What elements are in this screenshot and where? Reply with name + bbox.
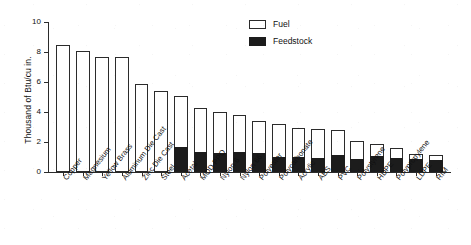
y-axis-tick xyxy=(44,112,49,113)
y-axis-line xyxy=(48,22,49,173)
y-axis-tick xyxy=(44,52,49,53)
legend-item-fuel: Fuel xyxy=(249,18,312,31)
y-axis-tick xyxy=(44,172,49,173)
y-axis-tick-label: 0 xyxy=(37,168,41,176)
y-axis-title: Thousand of Btu/cu in. xyxy=(23,25,33,175)
chart-legend: Fuel Feedstock xyxy=(249,18,312,52)
bar xyxy=(56,45,70,172)
y-axis-tick xyxy=(44,82,49,83)
legend-swatch-fuel xyxy=(249,20,266,29)
legend-swatch-feedstock xyxy=(249,37,266,46)
y-axis-tick-label: 10 xyxy=(32,18,41,26)
energy-content-bar-chart: Thousand of Btu/cu in. 0246810 CopperMag… xyxy=(0,0,471,245)
y-axis-tick-label: 8 xyxy=(37,48,41,56)
y-axis-tick xyxy=(44,142,49,143)
y-axis-tick-label: 2 xyxy=(37,138,41,146)
bar xyxy=(331,130,345,172)
legend-label-fuel: Fuel xyxy=(273,20,290,29)
y-axis-tick-label: 4 xyxy=(37,108,41,116)
legend-item-feedstock: Feedstock xyxy=(249,35,312,48)
y-axis-tick-label: 6 xyxy=(37,78,41,86)
legend-label-feedstock: Feedstock xyxy=(273,37,312,46)
y-axis-tick xyxy=(44,22,49,23)
bar xyxy=(76,51,90,173)
bar xyxy=(174,96,188,172)
